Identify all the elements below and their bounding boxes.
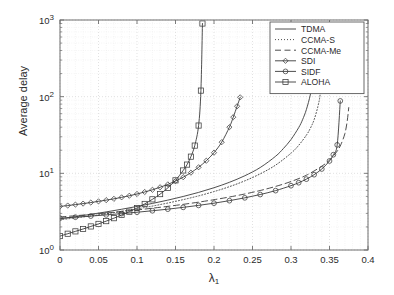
legend-label: ALOHA — [301, 77, 330, 87]
legend-layer: TDMACCMA-SCCMA-MeSDISIDFALOHA — [270, 22, 364, 94]
y-tick-label: 100 — [26, 243, 54, 256]
legend-label: CCMA-S — [301, 35, 335, 45]
chart-canvas: TDMACCMA-SCCMA-MeSDISIDFALOHA — [0, 0, 394, 295]
legend-label: CCMA-Me — [301, 46, 341, 56]
legend-label: TDMA — [301, 24, 326, 34]
x-tick-label: 0.05 — [79, 254, 119, 265]
y-tick-label: 103 — [26, 13, 54, 26]
x-axis-label-text: λ1 — [209, 271, 219, 285]
x-tick-label: 0.3 — [271, 254, 311, 265]
x-tick-label: 0.4 — [348, 254, 388, 265]
figure-container: TDMACCMA-SCCMA-MeSDISIDFALOHA Average de… — [0, 0, 394, 295]
y-tick-label: 101 — [26, 166, 54, 179]
x-tick-label: 0.35 — [310, 254, 350, 265]
markers — [57, 21, 205, 239]
y-tick-label: 102 — [26, 90, 54, 103]
legend: TDMACCMA-SCCMA-MeSDISIDFALOHA — [270, 22, 364, 94]
x-tick-label: 0.1 — [117, 254, 157, 265]
x-axis-label: λ1 — [60, 268, 368, 286]
x-tick-label: 0.25 — [233, 254, 273, 265]
x-tick-label: 0.2 — [194, 254, 234, 265]
series-aloha — [57, 21, 205, 239]
legend-label: SIDF — [301, 67, 321, 77]
x-tick-label: 0 — [40, 254, 80, 265]
x-tick-label: 0.15 — [156, 254, 196, 265]
legend-label: SDI — [301, 56, 315, 66]
series-sdi — [57, 95, 242, 209]
